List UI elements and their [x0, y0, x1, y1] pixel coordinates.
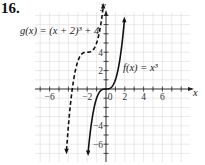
x-axis-label: x	[193, 87, 198, 98]
g-label: g(x) = (x + 2)³ + 4	[20, 25, 99, 36]
f-label: f(x) = x³	[123, 62, 158, 73]
svg-text:4: 4	[98, 48, 103, 58]
svg-text:−4: −4	[93, 121, 103, 131]
svg-text:−6: −6	[93, 140, 103, 150]
svg-text:6: 6	[160, 92, 165, 102]
svg-text:−2: −2	[82, 92, 92, 102]
y-axis-label: y	[101, 0, 106, 11]
svg-text:4: 4	[141, 92, 146, 102]
svg-text:2: 2	[122, 92, 127, 102]
ticks	[40, 15, 181, 153]
svg-text:2: 2	[98, 66, 103, 76]
svg-text:0: 0	[108, 92, 113, 102]
svg-text:−6: −6	[45, 92, 55, 102]
